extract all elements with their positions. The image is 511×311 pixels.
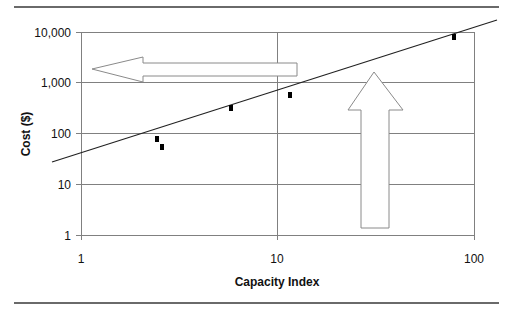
data-point (288, 92, 292, 98)
y-tick-10000: 10,000 (34, 26, 71, 40)
chart-svg: 10,000 1,000 100 10 1 1 10 100 Capacity … (0, 0, 511, 311)
y-tick-100: 100 (51, 127, 71, 141)
trendline (52, 20, 497, 162)
x-tick-1: 1 (78, 252, 85, 266)
x-axis-title: Capacity Index (235, 275, 320, 289)
x-tick-100: 100 (464, 252, 484, 266)
data-point (452, 34, 456, 40)
y-tick-1000: 1,000 (41, 76, 71, 90)
data-point (160, 144, 164, 150)
x-tick-labels: 1 10 100 (78, 252, 485, 266)
left-arrow-annotation (92, 57, 297, 82)
x-tick-10: 10 (270, 252, 284, 266)
up-arrow-annotation (348, 72, 403, 228)
y-tick-labels: 10,000 1,000 100 10 1 (34, 26, 71, 243)
y-tick-10: 10 (58, 178, 72, 192)
data-point (229, 105, 233, 111)
data-points (155, 34, 456, 150)
y-tick-1: 1 (64, 229, 71, 243)
data-point (155, 136, 159, 142)
y-axis-title: Cost ($) (19, 112, 33, 157)
